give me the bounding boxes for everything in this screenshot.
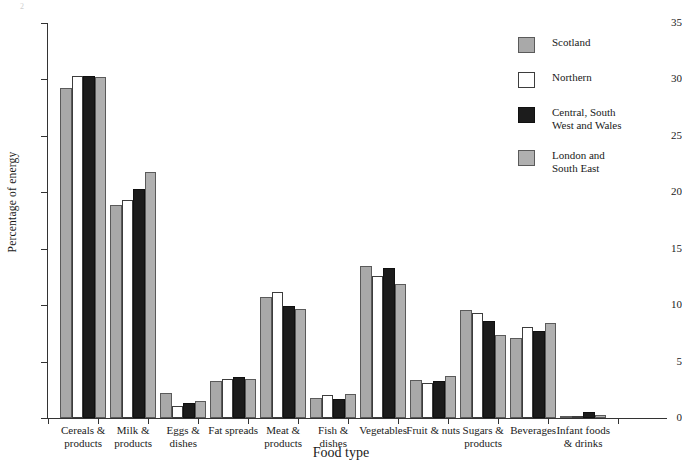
- y-axis-line: [47, 23, 48, 419]
- y-axis-tick: [41, 362, 48, 363]
- y-axis-tick-label: 15: [648, 243, 682, 254]
- legend-item[interactable]: London and South East: [518, 149, 678, 174]
- bar: [533, 331, 545, 418]
- bar: [122, 200, 134, 418]
- y-axis-label: Percentage of energy: [6, 112, 18, 292]
- legend-swatch-icon: [518, 150, 535, 166]
- bar: [133, 189, 145, 418]
- bar: [572, 416, 584, 418]
- bar: [472, 313, 484, 418]
- bar: [545, 323, 557, 418]
- bar: [372, 276, 384, 418]
- bar: [395, 284, 407, 418]
- y-axis-tick-label: 35: [648, 17, 682, 28]
- bar: [160, 393, 172, 418]
- bar-group: [160, 23, 206, 418]
- bar: [145, 172, 157, 418]
- y-axis-tick: [41, 23, 48, 24]
- legend-label: London and South East: [552, 149, 605, 174]
- bar-group: [110, 23, 156, 418]
- bar: [510, 338, 522, 418]
- bar: [383, 268, 395, 418]
- bar: [560, 416, 572, 418]
- bar: [222, 379, 234, 419]
- legend-item[interactable]: Northern: [518, 71, 678, 88]
- bar: [422, 383, 434, 418]
- y-axis-tick-label: 0: [648, 412, 682, 423]
- y-axis-tick-label: 10: [648, 299, 682, 310]
- bar: [172, 406, 184, 418]
- bar: [233, 377, 245, 418]
- bar: [95, 77, 107, 418]
- page-corner-mark: 2: [20, 2, 24, 11]
- bar: [110, 205, 122, 418]
- y-axis-tick: [41, 249, 48, 250]
- bar: [333, 399, 345, 418]
- legend-item[interactable]: Scotland: [518, 36, 678, 53]
- y-axis-tick: [41, 418, 48, 419]
- bar: [195, 401, 207, 418]
- bar-group: [360, 23, 406, 418]
- bar: [410, 380, 422, 418]
- bar: [433, 381, 445, 418]
- legend-label: Scotland: [552, 36, 591, 49]
- bar: [360, 266, 372, 418]
- bar: [460, 310, 472, 418]
- y-axis-tick: [41, 305, 48, 306]
- legend: ScotlandNorthernCentral, South West and …: [518, 36, 678, 192]
- bar: [260, 297, 272, 418]
- bar-group: [460, 23, 506, 418]
- bar: [445, 376, 457, 418]
- bar: [310, 398, 322, 418]
- bar: [183, 403, 195, 418]
- bar: [295, 309, 307, 418]
- bar: [595, 415, 607, 418]
- bar: [283, 306, 295, 418]
- y-axis-tick: [41, 79, 48, 80]
- bar-group: [60, 23, 106, 418]
- bar-group: [210, 23, 256, 418]
- bar: [60, 88, 72, 418]
- legend-item[interactable]: Central, South West and Wales: [518, 106, 678, 131]
- x-axis-category-label: Infant foods & drinks: [541, 424, 625, 449]
- bar-group: [410, 23, 456, 418]
- legend-label: Northern: [552, 71, 592, 84]
- bar: [322, 395, 334, 418]
- bar-group: [260, 23, 306, 418]
- bar: [83, 76, 95, 418]
- bar: [245, 379, 257, 419]
- bar: [483, 321, 495, 418]
- legend-swatch-icon: [518, 37, 535, 53]
- y-axis-tick: [41, 192, 48, 193]
- bar: [345, 394, 357, 418]
- y-axis-tick-label: 5: [648, 356, 682, 367]
- bar-chart: 2 35302520151050 Percentage of energy Fo…: [0, 0, 682, 468]
- y-axis-tick: [41, 136, 48, 137]
- bar: [522, 327, 534, 418]
- legend-label: Central, South West and Wales: [552, 106, 622, 131]
- bar: [272, 292, 284, 418]
- legend-swatch-icon: [518, 72, 535, 88]
- legend-swatch-icon: [518, 107, 535, 123]
- bar: [72, 76, 84, 418]
- bar: [495, 335, 507, 419]
- x-axis-line: [47, 418, 667, 419]
- bar-group: [310, 23, 356, 418]
- bar: [210, 381, 222, 418]
- bar: [583, 412, 595, 418]
